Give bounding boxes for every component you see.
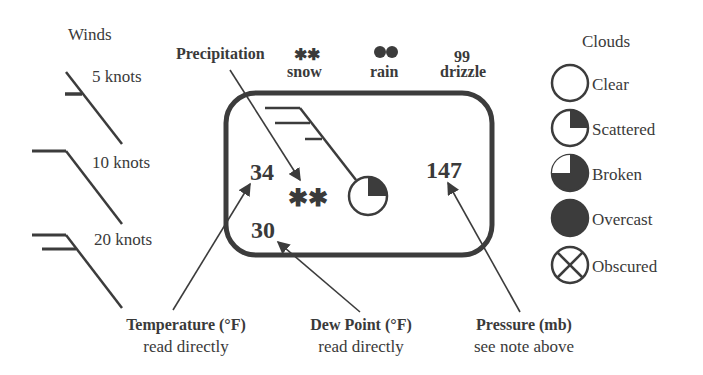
snow-label: snow: [287, 63, 322, 80]
rain-symbol-icon: [374, 46, 398, 58]
cloud-label-overcast: Overcast: [592, 210, 653, 229]
cloud-obscured-icon: [552, 247, 588, 283]
cloud-clear-icon: [552, 65, 588, 101]
temperature-title: Temperature (°F): [126, 316, 246, 334]
station-wind-barb-icon: [265, 108, 356, 180]
cloud-label-obscured: Obscured: [592, 257, 658, 276]
dew-point-title: Dew Point (°F): [310, 316, 411, 334]
station-temperature-value: 34: [250, 159, 274, 185]
callout-labels: Temperature (°F) read directly Dew Point…: [126, 316, 574, 356]
drizzle-label: drizzle: [440, 63, 486, 80]
wind-label-10-knots: 10 knots: [92, 153, 150, 172]
precipitation-title: Precipitation: [176, 45, 265, 63]
cloud-broken-icon: [552, 155, 588, 191]
station-cloud-cover-scattered-icon: [349, 177, 387, 215]
wind-label-5-knots: 5 knots: [92, 67, 142, 86]
precipitation-legend: Precipitation ✱✱ snow rain 99 drizzle: [176, 45, 486, 80]
station-pressure-value: 147: [426, 157, 462, 183]
station-weather-snow-icon: ✱✱: [288, 185, 328, 211]
cloud-label-scattered: Scattered: [592, 120, 656, 139]
station-dew-point-value: 30: [251, 217, 275, 243]
station-model-diagram: Winds 5 knots 10 knots 20 knots Precipit…: [0, 0, 703, 375]
winds-legend: Winds 5 knots 10 knots 20 knots: [32, 25, 152, 308]
wind-label-20-knots: 20 knots: [94, 230, 152, 249]
cloud-scattered-icon: [552, 110, 588, 146]
snow-symbol-icon: ✱✱: [294, 46, 320, 63]
clouds-title: Clouds: [582, 32, 630, 51]
cloud-overcast-icon: [552, 200, 588, 236]
cloud-label-clear: Clear: [592, 75, 629, 94]
rain-label: rain: [370, 63, 399, 80]
pressure-arrow: [448, 183, 520, 312]
cloud-label-broken: Broken: [592, 165, 643, 184]
station-model: 34 ✱✱ 30 147: [226, 93, 492, 255]
temperature-note: read directly: [143, 337, 229, 356]
pressure-note: see note above: [474, 337, 574, 356]
clouds-legend: Clouds Clear Scattered Broken Overcast O…: [552, 32, 658, 283]
dew-point-note: read directly: [318, 337, 404, 356]
pressure-title: Pressure (mb): [476, 316, 572, 334]
winds-title: Winds: [68, 25, 112, 44]
